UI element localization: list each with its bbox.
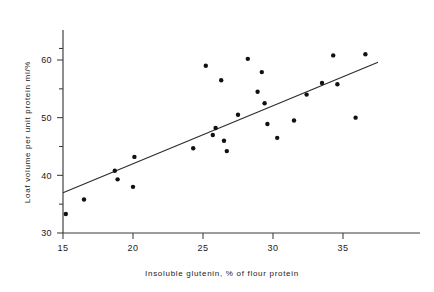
y-axis-ticks: 30405060: [41, 48, 63, 238]
data-point: [260, 70, 264, 74]
data-point: [262, 101, 266, 105]
data-point: [265, 122, 269, 126]
data-point: [236, 113, 240, 117]
y-axis-title: Loaf volume per unit protein ml/%: [23, 61, 32, 203]
data-point: [292, 118, 296, 122]
y-tick-label: 50: [41, 113, 52, 123]
x-axis-title: Insoluble glutenin, % of flour protein: [145, 269, 299, 278]
data-point: [204, 64, 208, 68]
data-point: [219, 78, 223, 82]
data-point: [225, 149, 229, 153]
y-tick-label: 30: [41, 228, 52, 238]
x-tick-label: 25: [198, 243, 209, 253]
x-tick-label: 35: [338, 243, 349, 253]
data-point: [335, 82, 339, 86]
data-points-group: [64, 52, 368, 216]
data-point: [82, 197, 86, 201]
chart-canvas: 30405060 1520253035 Insoluble glutenin, …: [0, 0, 434, 292]
data-point: [222, 139, 226, 143]
data-point: [246, 57, 250, 61]
scatter-plot-figure: 30405060 1520253035 Insoluble glutenin, …: [0, 0, 434, 292]
data-point: [363, 52, 367, 56]
data-point: [191, 146, 195, 150]
x-tick-label: 30: [268, 243, 279, 253]
data-point: [304, 92, 308, 96]
data-point: [113, 169, 117, 173]
data-point: [320, 81, 324, 85]
data-point: [353, 115, 357, 119]
data-point: [131, 185, 135, 189]
x-tick-label: 20: [128, 243, 139, 253]
y-tick-label: 40: [41, 171, 52, 181]
data-point: [132, 155, 136, 159]
y-tick-label: 60: [41, 55, 52, 65]
data-point: [213, 126, 217, 130]
data-point: [64, 212, 68, 216]
chart-axes: [63, 30, 420, 233]
data-point: [211, 133, 215, 137]
data-point: [115, 177, 119, 181]
x-tick-label: 15: [58, 243, 69, 253]
data-point: [255, 90, 259, 94]
x-axis-ticks: 1520253035: [58, 233, 349, 253]
data-point: [275, 136, 279, 140]
data-point: [331, 53, 335, 57]
